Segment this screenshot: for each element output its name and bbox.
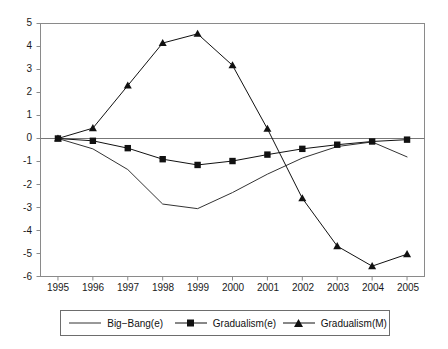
series-3 bbox=[54, 30, 411, 269]
legend-label: Big−Bang(e) bbox=[107, 318, 163, 329]
series-2 bbox=[55, 135, 411, 168]
legend-key-square-icon bbox=[174, 317, 208, 329]
legend-key-line-icon bbox=[68, 317, 102, 329]
x-axis-tick-labels: 1995 1996 1997 1998 1999 2000 2001 2002 … bbox=[0, 282, 448, 296]
chart-figure: 5 4 3 2 1 0 -1 -2 -3 -4 -5 -6 1995 1996 … bbox=[0, 0, 448, 349]
data-series-layer bbox=[54, 30, 411, 269]
legend-entry-gradualism-e: Gradualism(e) bbox=[170, 317, 279, 329]
series-1 bbox=[58, 139, 407, 209]
legend-entry-gradualism-m: Gradualism(M) bbox=[280, 317, 389, 329]
x-tick-label: 2005 bbox=[386, 282, 430, 293]
legend-label: Gradualism(M) bbox=[321, 318, 387, 329]
chart-canvas bbox=[0, 0, 448, 349]
legend-key-triangle-icon bbox=[282, 317, 316, 329]
legend-label: Gradualism(e) bbox=[213, 318, 276, 329]
chart-legend: Big−Bang(e) Gradualism(e) Gradualism(M) bbox=[60, 310, 390, 336]
legend-entry-big-bang: Big−Bang(e) bbox=[61, 317, 170, 329]
axis-ticks bbox=[37, 24, 408, 281]
